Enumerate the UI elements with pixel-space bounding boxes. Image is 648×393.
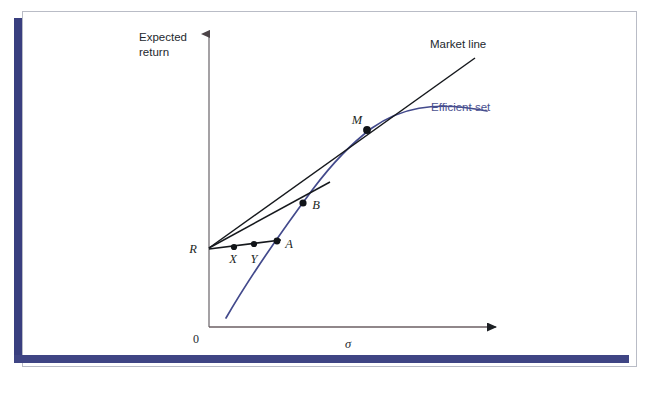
figure-page: R X Y A B M Expected return σ 0 Market l… [0,0,648,393]
axis-titles: Expected return σ 0 [139,31,352,351]
point-marker-X [231,244,237,250]
legend-annotations: Market line Efficient set [430,38,491,113]
point-label-X: X [228,252,238,266]
market-line-segment [209,58,475,248]
point-label-A: A [284,237,293,251]
legend-label-market-line: Market line [430,38,486,50]
point-marker-Y [251,241,257,247]
y-axis-title-line-1: Expected [139,31,187,43]
origin-label: 0 [193,332,199,346]
point-label-R: R [188,242,197,256]
efficient-set-curve [226,106,487,318]
point-marker-A [274,238,281,245]
efficient-set-path [226,106,487,318]
point-label-M: M [351,113,363,127]
point-marker-B [299,199,306,206]
y-axis-title-line-2: return [139,46,169,58]
point-marker-M [363,126,371,134]
plot-point-markers [231,126,371,250]
chord-r-to-b [209,182,330,248]
chart-axes [209,34,496,327]
x-axis-title: σ [345,337,352,351]
legend-label-efficient-set: Efficient set [431,101,491,113]
capital-market-line-figure: R X Y A B M Expected return σ 0 Market l… [0,0,648,393]
point-label-B: B [312,198,320,212]
market-line [209,58,475,248]
chord-rb-segment [209,182,330,248]
point-label-Y: Y [251,252,260,266]
